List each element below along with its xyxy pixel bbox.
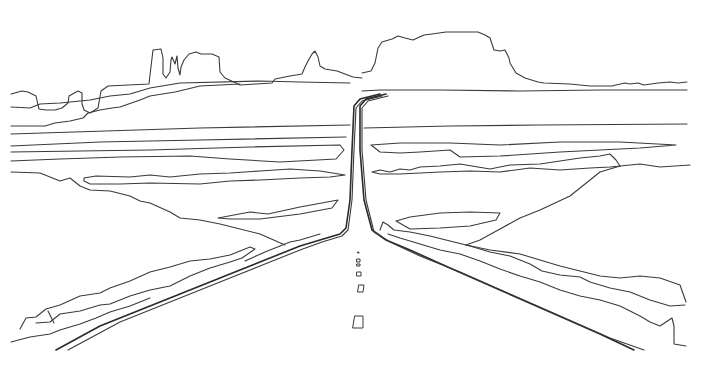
left-verge-1 <box>20 247 255 329</box>
right-verge-2 <box>388 234 686 346</box>
desert-road-line-drawing <box>0 0 727 374</box>
left-shelf-2 <box>84 169 345 184</box>
dash-6 <box>353 316 363 328</box>
right-shelf-2 <box>372 154 620 174</box>
road-right-edge <box>360 94 634 350</box>
right-shelf-1 <box>371 142 676 157</box>
mid-band-left <box>11 137 346 146</box>
left-lens <box>218 200 338 219</box>
horizon-main-right <box>362 90 687 91</box>
road-left-edge-far <box>56 94 380 350</box>
dash-4 <box>357 272 361 276</box>
terrain-left-group <box>11 145 345 245</box>
far-left-butte <box>11 49 362 113</box>
road-group <box>56 94 644 350</box>
right-lens <box>396 212 500 229</box>
dash-2 <box>357 259 360 262</box>
road-right-edge-inner <box>362 96 644 350</box>
ridge-left-mid <box>11 84 240 126</box>
left-verge-2 <box>11 298 150 342</box>
horizon-lines-group <box>11 81 687 146</box>
horizon-main-left <box>11 125 350 134</box>
dash-1 <box>358 252 359 253</box>
roadside-right-group <box>380 222 686 346</box>
lane-markings-group <box>353 252 364 328</box>
road-left-edge-inner <box>68 96 382 350</box>
right-verge-1 <box>380 222 685 306</box>
dash-3 <box>357 264 360 266</box>
right-mesa <box>362 32 687 86</box>
roadside-left-group <box>11 234 320 342</box>
ridge-left-low <box>11 81 350 108</box>
right-diagonal <box>466 166 620 245</box>
mid-band-right <box>364 124 687 128</box>
left-shelf-1 <box>11 145 344 162</box>
right-tail <box>620 164 690 167</box>
terrain-right-group <box>371 142 690 245</box>
buttes-group <box>11 32 687 113</box>
dash-5 <box>358 285 364 292</box>
